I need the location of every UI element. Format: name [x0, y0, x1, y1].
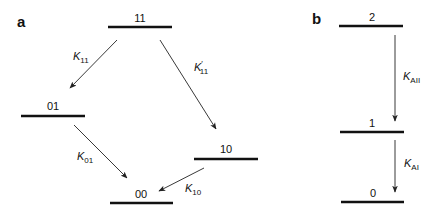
arrow-11-to-10	[160, 40, 216, 129]
level-10: 10	[194, 143, 258, 159]
level-11-label: 11	[134, 12, 145, 24]
panel-a-label: a	[17, 13, 26, 30]
transition-11-to-10: K′11	[160, 40, 216, 129]
level-01-label: 01	[47, 100, 59, 112]
transition-10-to-00: K10	[159, 168, 204, 197]
transition-11-to-01: K11	[70, 40, 117, 88]
panel-b-label: b	[312, 10, 321, 27]
transition-2-to-1: KAII	[395, 35, 420, 121]
rate-label-k10: K10	[185, 182, 202, 197]
energy-level-diagram: a 11 01 10 00 K11	[0, 0, 446, 220]
level-1: 1	[340, 117, 404, 132]
rate-label-k11: K11	[73, 50, 89, 65]
rate-label-kaii: KAII	[403, 70, 420, 85]
panel-b: b 2 1 0 KAII KAI	[312, 10, 420, 202]
level-2: 2	[339, 11, 403, 26]
panel-a: a 11 01 10 00 K11	[17, 12, 258, 203]
level-10-label: 10	[220, 143, 232, 155]
rate-label-k11-prime: K′11	[194, 59, 209, 76]
arrow-11-to-01	[70, 40, 117, 88]
level-0-label: 0	[370, 187, 376, 199]
level-1-label: 1	[369, 117, 375, 129]
level-2-label: 2	[369, 11, 375, 23]
level-01: 01	[21, 100, 85, 116]
level-00: 00	[110, 188, 173, 203]
transition-1-to-0: KAI	[395, 140, 419, 192]
level-11: 11	[108, 12, 172, 27]
transition-01-to-00: K01	[74, 125, 127, 178]
rate-label-kai: KAI	[404, 157, 419, 172]
level-00-label: 00	[135, 188, 147, 200]
rate-label-k01: K01	[77, 150, 94, 165]
